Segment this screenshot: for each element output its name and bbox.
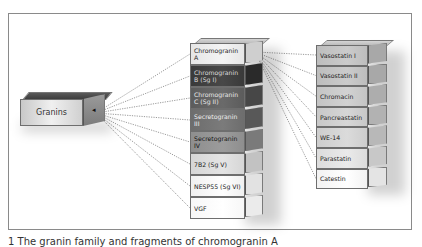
stack-row-side xyxy=(368,64,387,85)
granins-label: Granins xyxy=(20,99,83,126)
stack-row-side xyxy=(368,146,387,167)
stack-row: Vasostatin I xyxy=(316,45,368,66)
stack-row: Chromogranin B (Sg I) xyxy=(190,65,245,87)
stack-row-label: Chromogranin A xyxy=(194,47,241,61)
stack-row: Vasostatin II xyxy=(316,66,368,87)
stack-row-side xyxy=(245,107,263,129)
stack-row: Chromogranin A xyxy=(190,43,245,65)
stack-row-label: VGF xyxy=(194,205,207,212)
stack-row-label: Chromogranin C (Sg II) xyxy=(194,91,241,105)
stack-row-side xyxy=(245,151,263,173)
stack-row-label: Vasostatin II xyxy=(320,72,358,79)
stack-row-side xyxy=(368,167,387,188)
arrow-icon: ◂ xyxy=(92,106,96,114)
stack-row-label: Chromacin xyxy=(320,93,353,100)
stack-row-side xyxy=(245,173,263,195)
stack-row: NESP55 (Sg VI) xyxy=(190,175,245,197)
stack-row: Parastatin xyxy=(316,148,368,169)
stack-row: Chromacin xyxy=(316,86,368,107)
stack-row-side xyxy=(368,105,387,126)
stack-row: Secretogranin IV xyxy=(190,131,245,153)
figure-caption: 1 The granin family and fragments of chr… xyxy=(8,236,278,247)
stack-row: 7B2 (Sg V) xyxy=(190,153,245,175)
stack-row-label: Catestin xyxy=(320,175,346,182)
stack-row: Catestin xyxy=(316,169,368,190)
stack-row-side xyxy=(245,195,263,217)
stack-row-label: Vasostatin I xyxy=(320,52,356,59)
stack-row-label: Secretogranin III xyxy=(194,113,241,127)
stack-row-side xyxy=(368,84,387,105)
stack-row-side xyxy=(245,63,263,85)
stack-row: Chromogranin C (Sg II) xyxy=(190,87,245,109)
stack-row-label: NESP55 (Sg VI) xyxy=(194,183,241,190)
stack-row-label: WE-14 xyxy=(320,134,340,141)
stack-row-label: Parastatin xyxy=(320,155,351,162)
stack-row-side xyxy=(245,85,263,107)
stack-row: WE-14 xyxy=(316,127,368,148)
stack-row: Secretogranin III xyxy=(190,109,245,131)
stack-row: VGF xyxy=(190,197,245,219)
stack-row-label: Chromogranin B (Sg I) xyxy=(194,69,241,83)
stack-row-label: Pancreastatin xyxy=(320,114,362,121)
stack-row-side xyxy=(368,125,387,146)
stack-row-side xyxy=(245,41,263,63)
stack-row: Pancreastatin xyxy=(316,107,368,128)
stack-row-label: Secretogranin IV xyxy=(194,135,241,149)
stack-row-side xyxy=(368,43,387,64)
stack-row-side xyxy=(245,129,263,151)
stack-row-label: 7B2 (Sg V) xyxy=(194,161,227,168)
